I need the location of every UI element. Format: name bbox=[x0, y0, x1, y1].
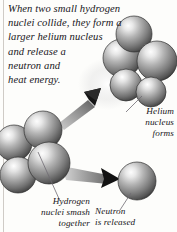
intro-text: When two small hydrogen nuclei collide, … bbox=[8, 2, 124, 87]
fusion-arrow bbox=[58, 88, 101, 130]
neutron-emission-arrow bbox=[62, 166, 120, 188]
neutron-sphere bbox=[118, 162, 156, 200]
neutron-caption: Neutron is released bbox=[95, 206, 171, 228]
hydrogen-nuclei-caption: Hydrogen nuclei smash together bbox=[16, 196, 90, 229]
helium-nucleus-caption: Helium nucleus forms bbox=[122, 106, 174, 139]
hydrogen-nuclei-cluster bbox=[0, 111, 70, 193]
fusion-illustration: When two small hydrogen nuclei collide, … bbox=[0, 0, 177, 232]
